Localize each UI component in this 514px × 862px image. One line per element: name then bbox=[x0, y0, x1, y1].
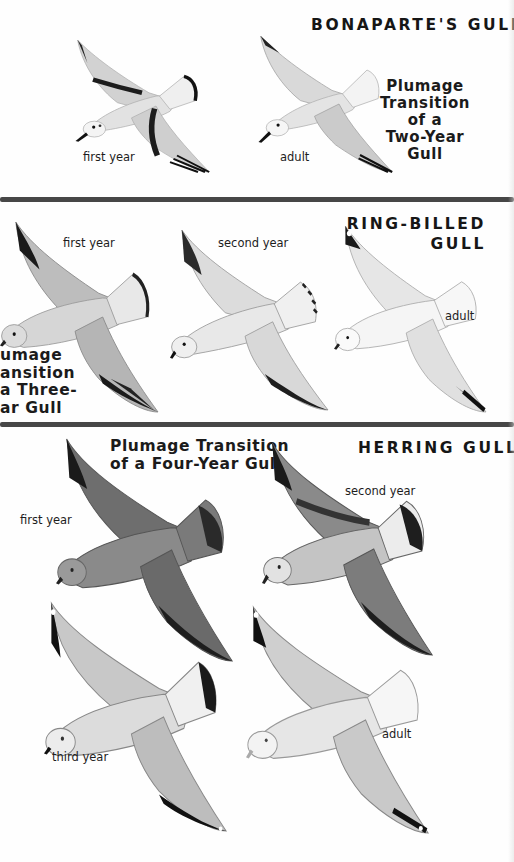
age-label: second year bbox=[218, 236, 288, 250]
bonapartes-gull-section: BONAPARTE'S GULL Plumage Transition of a… bbox=[0, 0, 514, 197]
ring-billed-gull-first-year-illustration bbox=[0, 222, 158, 412]
herring-gull-adult-illustration bbox=[246, 607, 430, 833]
ring-billed-gull-second-year-illustration bbox=[170, 230, 328, 410]
age-label: adult bbox=[382, 727, 411, 741]
bonapartes-gull-adult-illustration bbox=[255, 36, 395, 172]
age-label: first year bbox=[20, 513, 72, 527]
age-label: second year bbox=[345, 484, 415, 498]
gull-plumage-guide-page: BONAPARTE'S GULL Plumage Transition of a… bbox=[0, 0, 514, 862]
ring-billed-gull-section: RING-BILLED GULL umage ansition a Three-… bbox=[0, 202, 514, 422]
age-label: first year bbox=[83, 150, 135, 164]
herring-gull-third-year-illustration bbox=[44, 603, 228, 831]
age-label: third year bbox=[52, 750, 108, 764]
age-label: adult bbox=[445, 309, 474, 323]
page-edge-shadow bbox=[508, 0, 514, 862]
species-title: BONAPARTE'S GULL bbox=[311, 16, 514, 34]
age-label: adult bbox=[280, 150, 309, 164]
herring-gull-section: HERRING GULL Plumage Transition of a Fou… bbox=[0, 427, 514, 862]
age-label: first year bbox=[63, 236, 115, 250]
